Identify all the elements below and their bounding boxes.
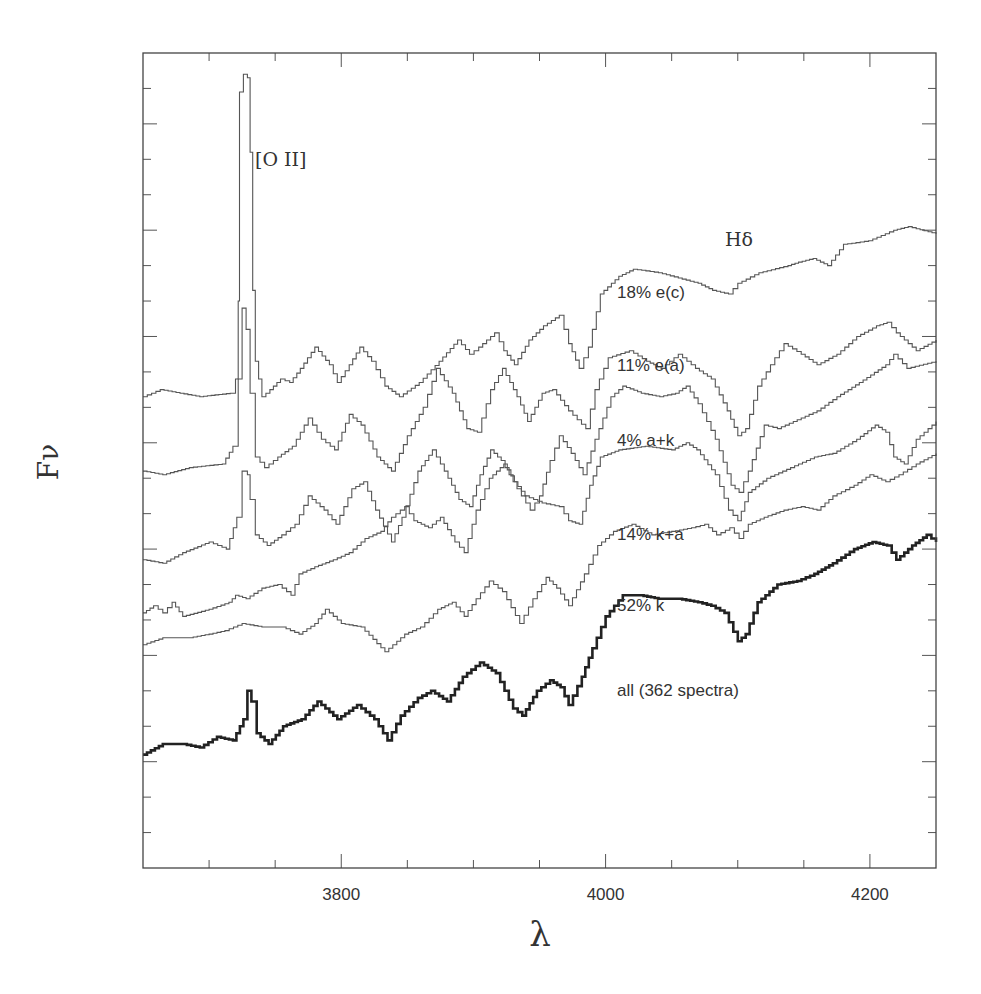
- x-tick-labels: 380040004200: [322, 885, 888, 904]
- series-label: 14% k+a: [617, 525, 684, 544]
- x-tick-label: 3800: [322, 885, 360, 904]
- x-tick-label: 4000: [587, 885, 625, 904]
- spectrum-curve: [143, 422, 936, 617]
- spectra-chart: 380040004200 18% e(c)11% e(a)4% a+k14% k…: [0, 0, 981, 994]
- oii-annotation: [O II]: [255, 148, 306, 170]
- series-label: 52% k: [617, 596, 665, 615]
- series-label: 4% a+k: [617, 431, 675, 450]
- x-axis-label: λ: [529, 914, 551, 954]
- series-labels: 18% e(c)11% e(a)4% a+k14% k+a52% kall (3…: [617, 283, 739, 700]
- annotations: [O II]Hδ: [255, 148, 753, 250]
- plot-frame: [143, 53, 936, 868]
- hdelta-annotation: Hδ: [725, 228, 753, 250]
- spectrum-curve: [143, 74, 936, 396]
- spectra-curves: [143, 74, 936, 754]
- axis-ticks: [143, 53, 936, 868]
- spectrum-curve: [143, 453, 936, 651]
- series-label: 11% e(a): [617, 356, 685, 375]
- series-label: all (362 spectra): [617, 681, 739, 700]
- y-axis-label: Fν: [32, 444, 65, 480]
- spectrum-curve: [143, 535, 936, 755]
- x-tick-label: 4200: [851, 885, 889, 904]
- series-label: 18% e(c): [617, 283, 685, 302]
